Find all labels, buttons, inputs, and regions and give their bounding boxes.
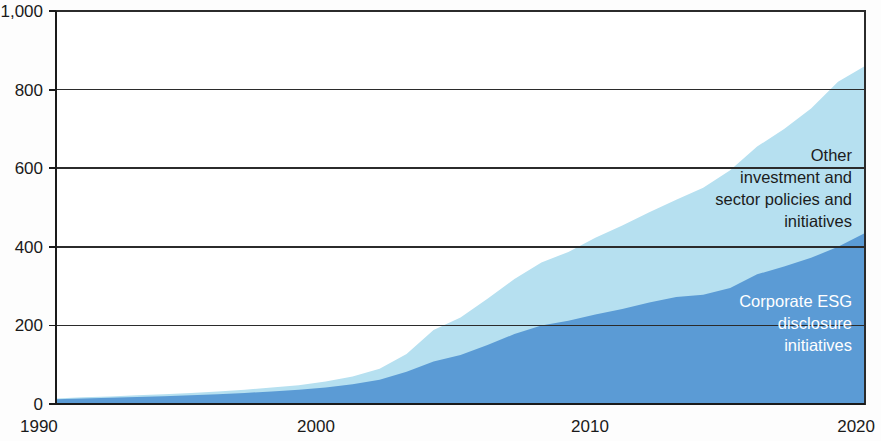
x-tick-label-2020: 2020	[837, 417, 875, 436]
x-tick-label-2000: 2000	[297, 417, 335, 436]
y-tick-label-400: 400	[15, 238, 43, 257]
stacked-area-chart: 02004006008001,000 1990 2000 2010 2020 O…	[0, 0, 881, 441]
y-tick-label-0: 0	[34, 395, 43, 414]
y-tick-label-1000: 1,000	[0, 2, 43, 21]
y-tick-label-200: 200	[15, 316, 43, 335]
plot-area: 02004006008001,000 1990 2000 2010 2020 O…	[0, 0, 881, 441]
annotation-esg-line3: initiatives	[784, 336, 852, 354]
y-axis-ticks: 02004006008001,000	[0, 2, 56, 414]
chart-canvas: 02004006008001,000 1990 2000 2010 2020 O…	[0, 0, 881, 441]
annotation-other-line4: initiatives	[784, 212, 852, 230]
y-tick-label-600: 600	[15, 159, 43, 178]
y-tick-label-800: 800	[15, 81, 43, 100]
x-tick-label-2010: 2010	[571, 417, 609, 436]
x-axis-ticks: 1990 2000 2010 2020	[20, 417, 875, 436]
annotation-other-line2: investment and	[740, 168, 852, 186]
annotation-other-line3: sector policies and	[715, 190, 852, 208]
annotation-other-line1: Other	[811, 146, 853, 164]
x-tick-label-1990: 1990	[20, 417, 58, 436]
annotation-esg-line2: disclosure	[778, 314, 852, 332]
annotation-esg-line1: Corporate ESG	[739, 292, 852, 310]
